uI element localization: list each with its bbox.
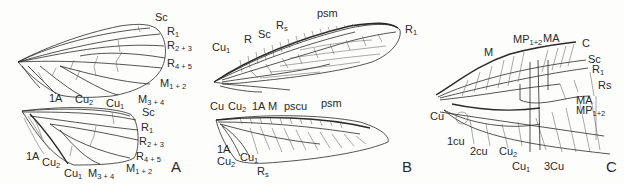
label-text: Cu [512, 160, 526, 172]
label-c-mp12-right: MP1+2 [576, 105, 605, 119]
label-text: M [268, 100, 277, 112]
label-text: MA [543, 32, 560, 44]
label-sub: 1 [413, 28, 417, 37]
label-text: Cu [499, 145, 513, 157]
label-text: Cu [217, 155, 231, 167]
label-a-hw-1a: 1A [26, 151, 39, 162]
label-sub: 1 [600, 68, 604, 77]
label-sub: 1+2 [530, 38, 543, 47]
label-c-3cu: 3Cu [544, 161, 564, 172]
label-a-hw-r23: R2 + 3 [139, 136, 164, 150]
label-text: 1A [217, 143, 230, 155]
label-text: R [139, 135, 147, 147]
label-sub: 2 [513, 150, 517, 159]
label-text: C [582, 37, 590, 49]
panel-label-a: A [171, 158, 181, 175]
label-sub: 2 [56, 161, 60, 170]
label-text: R [257, 165, 265, 177]
label-text: R [136, 150, 144, 162]
label-text: psm [321, 97, 342, 109]
label-a-fw-m12: M1 + 2 [160, 78, 186, 92]
label-b-cu2-top: Cu2 [228, 101, 246, 115]
label-c-m: M [484, 47, 493, 58]
label-b-psm-top: psm [317, 8, 338, 19]
label-b-psm-bot: psm [321, 98, 342, 109]
label-text: R [244, 33, 252, 45]
label-a-fw-1a: 1A [49, 93, 62, 104]
label-text: M [160, 77, 169, 89]
label-a-hw-m12: M1 + 2 [126, 163, 152, 177]
label-b-1a-top: 1A [252, 101, 265, 112]
label-text: M [484, 46, 493, 58]
label-sub: s [265, 170, 269, 179]
label-text: Cu [228, 100, 242, 112]
label-c-cu: Cu [430, 111, 444, 122]
label-b-1a-bot: 1A [217, 144, 230, 155]
label-text: Cu [212, 41, 226, 53]
label-sub: 3 + 4 [97, 172, 114, 181]
label-text: R [592, 63, 600, 75]
label-text: Cu [75, 93, 89, 105]
label-text: Sc [258, 28, 271, 40]
panel-label-b: B [402, 158, 412, 175]
label-sub: 2 [231, 160, 235, 169]
label-a-hw-sc: Sc [142, 107, 155, 118]
label-c-ma-top: MA [543, 33, 560, 44]
label-a-fw-sc: Sc [155, 12, 168, 23]
label-b-r1: R1 [405, 24, 417, 38]
label-text: Rs [598, 79, 611, 91]
label-sub: 1 [526, 165, 530, 174]
label-c-2cu: 2cu [470, 146, 488, 157]
label-sub: 1 [120, 102, 124, 111]
label-text: R [405, 23, 413, 35]
label-sub: 1+2 [593, 109, 606, 118]
panel-a-forewing [18, 24, 166, 97]
label-text: MP [576, 104, 593, 116]
label-text: Cu [210, 100, 224, 112]
label-b-sc: Sc [258, 29, 271, 40]
label-text: psm [317, 7, 338, 19]
label-sub: 4 + 5 [175, 62, 192, 71]
label-text: 1A [49, 92, 62, 104]
label-text: 1cu [447, 135, 465, 147]
label-text: 2cu [470, 145, 488, 157]
label-c-cu2: Cu2 [499, 146, 517, 160]
label-b-cu1-top: Cu1 [212, 42, 230, 56]
label-a-fw-cu1: Cu1 [106, 98, 124, 112]
label-b-cu2-bot: Cu2 [217, 156, 235, 170]
label-a-hw-cu2: Cu2 [42, 157, 60, 171]
label-c-1cu: 1cu [447, 136, 465, 147]
label-a-fw-r23: R2 + 3 [167, 40, 192, 54]
label-b-cu1-bot: Cu1 [240, 152, 258, 166]
label-sub: 2 [89, 98, 93, 107]
label-c-mp12-top: MP1+2 [513, 34, 542, 48]
label-text: M [138, 93, 147, 105]
label-text: MP [513, 33, 530, 45]
label-sub: s [284, 24, 288, 33]
label-b-r: R [244, 34, 252, 45]
panel-label-c: C [606, 158, 617, 175]
label-text: Sc [142, 106, 155, 118]
label-sub: 2 + 3 [147, 140, 164, 149]
label-text: Cu [430, 110, 444, 122]
label-text: R [167, 57, 175, 69]
panel-b-forewing [214, 23, 400, 92]
label-b-cu: Cu [210, 101, 224, 112]
label-b-rs-top: Rs [276, 20, 288, 34]
label-sub: 2 [242, 105, 246, 114]
label-sub: 1 + 2 [169, 82, 186, 91]
label-text: 1A [26, 150, 39, 162]
label-text: R [141, 121, 149, 133]
label-text: Cu [106, 97, 120, 109]
label-text: Cu [240, 151, 254, 163]
label-text: 3Cu [544, 160, 564, 172]
label-sub: 1 + 2 [135, 167, 152, 176]
label-a-hw-cu1: Cu1 [64, 168, 82, 182]
label-text: R [167, 39, 175, 51]
label-a-fw-cu2: Cu2 [75, 94, 93, 108]
label-sub: 1 [254, 156, 258, 165]
label-a-hw-r1: R1 [141, 122, 153, 136]
label-b-rs-bot: Rs [257, 166, 269, 180]
label-text: Sc [155, 11, 168, 23]
label-text: M [126, 162, 135, 174]
